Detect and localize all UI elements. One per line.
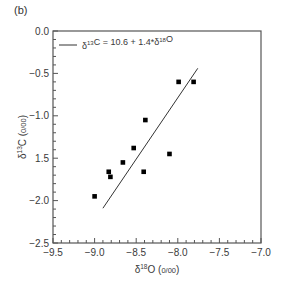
y-tick-label: −2.5 [29, 238, 49, 249]
figure: (b) −9.5−9.0−8.5−8.0−7.5−7.00.0−0.5−1.01… [0, 0, 281, 286]
x-tick-label: −9.0 [85, 247, 105, 258]
x-tick-label: −8.5 [126, 247, 146, 258]
y-tick-label: 0.0 [35, 26, 49, 37]
x-tick-label: −7.5 [210, 247, 230, 258]
data-point [191, 80, 196, 85]
y-tick-label: 1.5 [35, 153, 49, 164]
panel-label: (b) [14, 4, 27, 16]
y-tick-label: −2.0 [29, 195, 49, 206]
data-point [176, 80, 181, 85]
data-point [92, 194, 97, 199]
data-point [108, 175, 113, 180]
data-point [143, 118, 148, 123]
scatter-chart: −9.5−9.0−8.5−8.0−7.5−7.00.0−0.5−1.01.5−2… [0, 0, 281, 286]
data-point [131, 146, 136, 151]
y-tick-label: −1.0 [29, 110, 49, 121]
x-tick-label: −7.0 [251, 247, 271, 258]
data-point [121, 160, 126, 165]
data-point [141, 169, 146, 174]
data-point [106, 169, 111, 174]
x-tick-label: −9.5 [43, 247, 63, 258]
regression-line [103, 68, 198, 208]
x-axis-label: δ18O (0/00) [135, 263, 180, 275]
legend-label: δ13C = 10.6 + 1.4*δ18O [82, 34, 173, 51]
x-tick-label: −8.0 [168, 247, 188, 258]
data-point [167, 152, 172, 157]
y-axis-label: δ13C (0/00) [16, 115, 28, 159]
y-tick-label: −0.5 [29, 68, 49, 79]
plot-frame [53, 31, 261, 243]
